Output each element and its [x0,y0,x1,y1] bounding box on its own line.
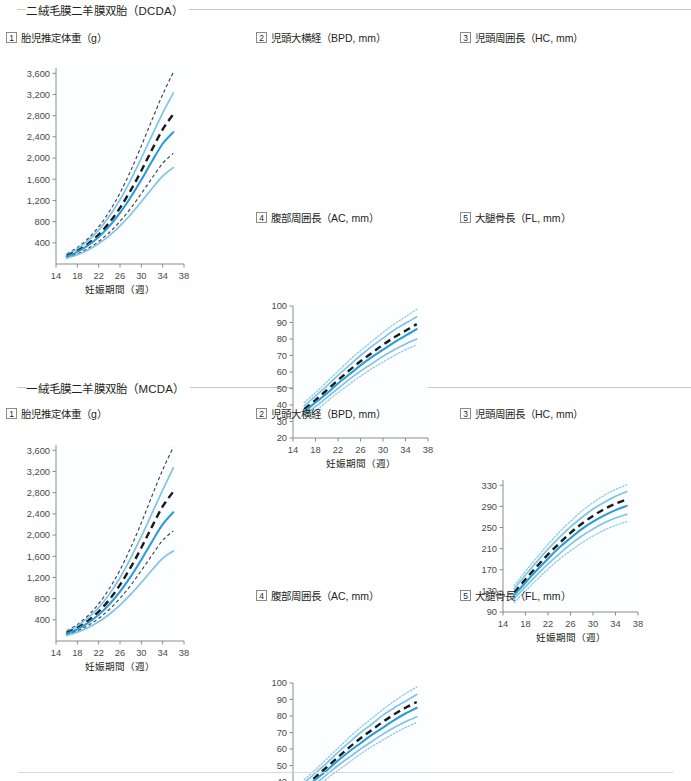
chart-header-a-fl: 5大腿骨長（FL, mm） [460,208,571,223]
y-tick-label: 3,600 [27,69,50,79]
x-axis-label: 妊娠期間（週） [85,284,155,295]
chart-header-b-hc: 3児頭周囲長（HC, mm） [460,404,584,419]
y-tick-label: 1,600 [27,175,50,185]
x-tick-label: 34 [157,648,167,658]
y-tick-label: 80 [277,711,287,721]
chart-title-label: 児頭周囲長（HC, mm） [475,30,584,45]
chart-title-label: 胎児推定体重（g） [21,30,107,45]
panel-badge-b: B [4,381,17,394]
y-tick-label: 40 [277,777,287,781]
y-tick-label: 400 [34,615,50,625]
y-tick-label: 3,600 [27,446,50,456]
x-tick-label: 30 [136,271,146,281]
chart-number-badge: 2 [256,32,267,43]
y-tick-label: 800 [34,594,50,604]
chart-title-label: 大腿骨長（FL, mm） [475,588,571,603]
chart-header-a-bpd: 2児頭大横経（BPD, mm） [256,28,386,43]
y-tick-label: 1,600 [27,552,50,562]
y-tick-label: 60 [277,367,287,377]
chart-title-row: 2児頭大横経（BPD, mm） [256,404,386,419]
x-tick-label: 14 [51,271,61,281]
y-tick-label: 2,400 [27,132,50,142]
chart-number-badge: 5 [460,590,471,601]
chart-header-a-ac: 4腹部周囲長（AC, mm） [256,208,379,223]
x-tick-label: 18 [72,271,82,281]
chart-title-row: 5大腿骨長（FL, mm） [460,586,571,601]
y-tick-label: 2,800 [27,488,50,498]
plot-background [56,445,184,641]
y-tick-label: 2,400 [27,509,50,519]
chart-header-a-efw: 1胎児推定体重（g） [6,28,107,43]
x-tick-label: 22 [93,271,103,281]
chart-number-badge: 4 [256,212,267,223]
panel-title-mcda: 一絨毛膜二羊膜双胎（MCDA） [26,380,190,396]
chart-title-label: 腹部周囲長（AC, mm） [271,210,379,225]
panel-title-dcda: 二絨毛膜二羊膜双胎（DCDA） [26,2,189,18]
chart-title-label: 腹部周囲長（AC, mm） [271,588,379,603]
chart-number-badge: 4 [256,590,267,601]
x-tick-label: 30 [136,648,146,658]
y-tick-label: 70 [277,728,287,738]
chart-number-badge: 3 [460,408,471,419]
chart-title-row: 3児頭周囲長（HC, mm） [460,404,584,419]
chart-title-row: 1胎児推定体重（g） [6,404,107,419]
chart-title-label: 大腿骨長（FL, mm） [475,210,571,225]
panel-badge-a: A [4,3,17,16]
panel-mcda: B 一絨毛膜二羊膜双胎（MCDA） 1胎児推定体重（g）4008001,2001… [0,378,691,781]
y-tick-label: 3,200 [27,467,50,477]
chart-plot-b-efw: 4008001,2001,6002,0002,4002,8003,2003,60… [10,437,691,675]
x-tick-label: 38 [179,271,189,281]
chart-title-row: 1胎児推定体重（g） [6,28,107,43]
x-tick-label: 14 [51,648,61,658]
chart-number-badge: 3 [460,32,471,43]
y-tick-label: 1,200 [27,196,50,206]
y-tick-label: 80 [277,334,287,344]
y-tick-label: 100 [271,678,287,688]
y-tick-label: 90 [277,318,287,328]
x-tick-label: 26 [115,648,125,658]
panel-mcda-header: B 一絨毛膜二羊膜双胎（MCDA） [4,378,691,398]
plot-background [56,68,184,264]
chart-plot-b-bpd: 203040506070809010014182226303438妊娠期間（週） [247,675,691,781]
chart-number-badge: 5 [460,212,471,223]
chart-title-row: 4腹部周囲長（AC, mm） [256,586,379,601]
y-tick-label: 90 [277,695,287,705]
y-tick-label: 1,200 [27,573,50,583]
chart-title-row: 4腹部周囲長（AC, mm） [256,208,379,223]
chart-title-label: 胎児推定体重（g） [21,406,107,421]
chart-header-a-hc: 3児頭周囲長（HC, mm） [460,28,584,43]
y-tick-label: 2,000 [27,153,50,163]
chart-header-b-fl: 5大腿骨長（FL, mm） [460,586,571,601]
x-tick-label: 22 [93,648,103,658]
chart-title-row: 5大腿骨長（FL, mm） [460,208,571,223]
chart-number-badge: 2 [256,408,267,419]
footer-rule [18,772,673,773]
x-tick-label: 18 [72,648,82,658]
x-axis-label: 妊娠期間（週） [85,661,155,672]
y-tick-label: 100 [271,301,287,311]
y-tick-label: 70 [277,351,287,361]
chart-number-badge: 1 [6,408,17,419]
y-tick-label: 50 [277,761,287,771]
y-tick-label: 60 [277,744,287,754]
chart-plot-a-efw: 4008001,2001,6002,0002,4002,8003,2003,60… [10,60,691,298]
x-tick-label: 38 [179,648,189,658]
panel-dcda-header: A 二絨毛膜二羊膜双胎（DCDA） [4,0,691,20]
chart-title-label: 児頭周囲長（HC, mm） [475,406,584,421]
chart-title-label: 児頭大横経（BPD, mm） [271,30,386,45]
y-tick-label: 3,200 [27,90,50,100]
y-tick-label: 2,000 [27,530,50,540]
chart-title-row: 3児頭周囲長（HC, mm） [460,28,584,43]
x-tick-label: 34 [157,271,167,281]
x-tick-label: 26 [115,271,125,281]
y-tick-label: 400 [34,238,50,248]
y-tick-label: 2,800 [27,111,50,121]
chart-title-label: 児頭大横経（BPD, mm） [271,406,386,421]
chart-header-b-efw: 1胎児推定体重（g） [6,404,107,419]
chart-header-b-ac: 4腹部周囲長（AC, mm） [256,586,379,601]
chart-number-badge: 1 [6,32,17,43]
y-tick-label: 800 [34,217,50,227]
chart-title-row: 2児頭大横経（BPD, mm） [256,28,386,43]
chart-header-b-bpd: 2児頭大横経（BPD, mm） [256,404,386,419]
